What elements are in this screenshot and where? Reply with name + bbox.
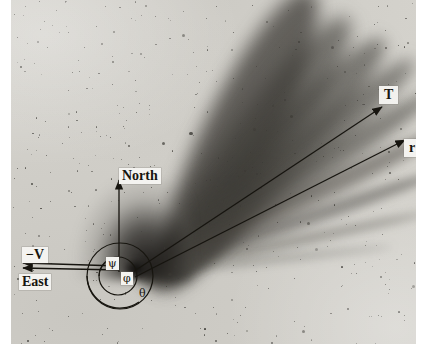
photographic-plate: North T r −V East ψ φ θ	[11, 0, 416, 344]
plate-fog	[11, 0, 416, 344]
figure-canvas: North T r −V East ψ φ θ	[0, 0, 427, 363]
